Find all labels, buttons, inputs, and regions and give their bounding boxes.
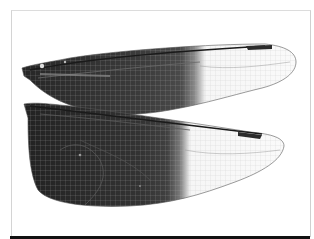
forewing (22, 44, 296, 115)
hindwing (24, 103, 284, 206)
dragonfly-wings-photo (0, 0, 314, 239)
wing-spot (40, 64, 44, 68)
bottom-edge-bar (10, 236, 310, 239)
